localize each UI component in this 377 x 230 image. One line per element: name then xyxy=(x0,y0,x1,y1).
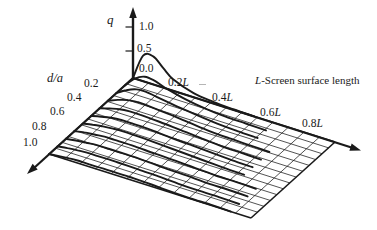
q-profile-curve-da-0.1 xyxy=(125,77,266,131)
seepage-wireframe-figure: q 1.0 0.5 0.0 d/a 0.2 0.4 0.6 0.8 1.0 0.… xyxy=(0,0,377,230)
da-tick-0.2: 0.2 xyxy=(84,78,98,90)
l-tick-0.2L: 0.2L xyxy=(168,77,189,89)
grid-line-const-da xyxy=(62,142,264,206)
q-tick-1.0: 1.0 xyxy=(139,21,153,33)
q-axis-arrowhead xyxy=(129,7,137,18)
da-axis-line xyxy=(34,78,133,168)
grid-line-const-l xyxy=(158,112,242,188)
q-axis-label: q xyxy=(107,13,114,26)
da-axis-label: d/a xyxy=(47,72,63,85)
grid-line-const-l xyxy=(251,142,335,218)
da-tick-0.6: 0.6 xyxy=(50,106,64,118)
grid-line-const-l xyxy=(173,117,257,193)
grid-line-const-l xyxy=(142,108,226,184)
q-tick-0.0: 0.0 xyxy=(139,63,153,75)
l-tick-0.4L: 0.4L xyxy=(212,92,233,104)
da-tick-1.0: 1.0 xyxy=(23,137,37,149)
l-tick-0.6L: 0.6L xyxy=(260,107,281,119)
da-tick-0.4: 0.4 xyxy=(67,92,81,104)
l-axis-arrowhead xyxy=(349,144,361,151)
l-tick-0.8L: 0.8L xyxy=(302,118,323,130)
q-tick-0.5: 0.5 xyxy=(137,43,151,55)
l-axis-title: L-Screen surface length xyxy=(255,75,359,86)
grid-line-const-l xyxy=(235,137,319,213)
da-tick-0.8: 0.8 xyxy=(32,121,46,133)
